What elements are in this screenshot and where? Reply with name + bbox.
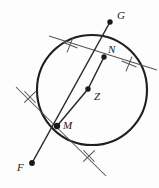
geometry-figure: G N Z M F xyxy=(0,0,159,188)
point-dot-g xyxy=(107,19,112,24)
point-dot-f xyxy=(29,160,35,166)
point-label-g: G xyxy=(117,10,125,21)
tangent-line-at-n xyxy=(49,36,157,70)
circle-centered-at-z xyxy=(37,35,147,145)
point-dot-z xyxy=(85,86,90,91)
point-label-f: F xyxy=(17,162,24,173)
point-label-z: Z xyxy=(94,91,100,102)
tick-mark-lower-right-of-m xyxy=(78,145,101,168)
point-dot-m xyxy=(54,123,60,129)
point-label-m: M xyxy=(63,120,72,131)
point-label-n: N xyxy=(108,44,115,55)
construction-canvas xyxy=(0,0,159,188)
radius-z-to-m xyxy=(57,89,88,126)
radius-z-to-n xyxy=(88,57,104,89)
point-dot-n xyxy=(101,54,106,59)
